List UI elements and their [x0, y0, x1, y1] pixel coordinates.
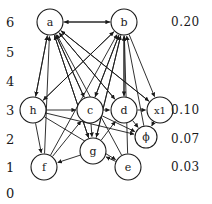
edge-g-to-d [101, 122, 115, 141]
axis-tick-4: 4 [6, 75, 14, 88]
node-label-g: g [89, 145, 96, 158]
edge-b-to-h [43, 31, 114, 100]
node-label-h: h [29, 104, 36, 117]
node-f[interactable]: f [31, 154, 57, 180]
edge-h-to-a [36, 36, 48, 97]
node-x1[interactable]: x1 [147, 97, 173, 123]
node-label-d: d [120, 104, 127, 117]
value-label-0.20: 0.20 [171, 16, 200, 28]
node-label-c: c [87, 104, 93, 117]
value-label-0.07: 0.07 [171, 133, 200, 145]
node-d[interactable]: d [111, 97, 137, 123]
edge-d-to-phi [133, 120, 139, 127]
edge-c-to-g [91, 123, 92, 136]
axis-tick-2: 2 [6, 133, 14, 146]
node-label-e: e [125, 161, 132, 174]
edge-h-to-f [36, 123, 42, 153]
node-label-b: b [120, 16, 127, 29]
edge-b-to-x1 [129, 34, 154, 96]
edge-x1-to-phi [152, 122, 154, 126]
node-label-phi: ϕ [142, 131, 150, 144]
edge-e-to-b [124, 36, 127, 153]
value-label-0.03: 0.03 [171, 161, 200, 173]
axis-tick-3: 3 [6, 104, 14, 117]
edge-b-to-c [95, 35, 119, 97]
node-g[interactable]: g [80, 138, 106, 164]
value-label-0.10: 0.10 [171, 104, 200, 116]
node-b[interactable]: b [111, 9, 137, 35]
edge-g-to-f [58, 155, 80, 162]
node-phi[interactable]: ϕ [135, 126, 157, 148]
axis-tick-6: 6 [6, 16, 14, 29]
axis-tick-0: 0 [6, 187, 14, 200]
node-e[interactable]: e [115, 154, 141, 180]
node-label-x1: x1 [154, 105, 166, 116]
node-c[interactable]: c [77, 97, 103, 123]
axis-tick-1: 1 [6, 161, 14, 174]
node-a[interactable]: a [37, 9, 63, 35]
graph-figure: abhcdx1ϕfge 6543210 0.200.100.070.03 [0, 0, 212, 204]
edge-a-to-c [56, 34, 84, 97]
node-h[interactable]: h [20, 97, 46, 123]
nodes-layer: abhcdx1ϕfge [20, 9, 173, 180]
node-label-a: a [47, 16, 54, 29]
axis-tick-5: 5 [6, 46, 14, 59]
